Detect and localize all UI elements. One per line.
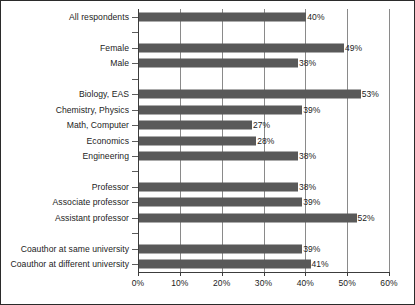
y-tick: [132, 202, 138, 203]
y-tick: [132, 94, 138, 95]
y-tick-spacer: [132, 171, 138, 172]
bar-value-label: 38%: [299, 58, 316, 68]
category-label: Coauthor at same university: [1, 244, 132, 254]
bar-value-label: 40%: [307, 12, 324, 22]
bar: [139, 121, 252, 130]
y-tick-spacer: [132, 32, 138, 33]
y-tick: [132, 156, 138, 157]
category-label: Economics: [1, 136, 132, 146]
bar: [139, 213, 357, 222]
y-tick: [132, 63, 138, 64]
x-tick-label: 0%: [132, 278, 145, 288]
x-tick-50pct: [347, 272, 348, 276]
y-tick: [132, 218, 138, 219]
category-label: Female: [1, 43, 132, 53]
bar-value-label: 53%: [362, 89, 379, 99]
x-tick-label: 60%: [380, 278, 397, 288]
y-tick: [132, 48, 138, 49]
category-label: Chemistry, Physics: [1, 105, 132, 115]
x-tick-label: 30%: [255, 278, 272, 288]
x-tick-20pct: [222, 272, 223, 276]
y-tick-spacer: [132, 79, 138, 80]
category-label: Male: [1, 58, 132, 68]
y-tick: [132, 141, 138, 142]
category-label: Biology, EAS: [1, 89, 132, 99]
bar-chart-figure: 0%10%20%30%40%50%60%All respondents40%Fe…: [0, 0, 415, 305]
bar-value-label: 28%: [257, 136, 274, 146]
category-label: Assistant professor: [1, 213, 132, 223]
y-tick: [132, 187, 138, 188]
x-tick-0pct: [138, 272, 139, 276]
bar: [139, 198, 302, 207]
y-tick: [132, 249, 138, 250]
bar-value-label: 38%: [299, 182, 316, 192]
x-tick-label: 20%: [213, 278, 230, 288]
bar-value-label: 27%: [253, 120, 270, 130]
y-tick: [132, 264, 138, 265]
bar: [139, 59, 298, 68]
bar-value-label: 52%: [358, 213, 375, 223]
bar-value-label: 38%: [299, 151, 316, 161]
bar: [139, 136, 256, 145]
category-label: Coauthor at different university: [1, 259, 132, 269]
x-tick-30pct: [264, 272, 265, 276]
bar-value-label: 49%: [345, 43, 362, 53]
bar-value-label: 39%: [303, 105, 320, 115]
x-tick-label: 40%: [297, 278, 314, 288]
bar: [139, 151, 298, 160]
category-label: Math, Computer: [1, 120, 132, 130]
x-tick-10pct: [180, 272, 181, 276]
bar: [139, 182, 298, 191]
bar: [139, 90, 361, 99]
bar: [139, 260, 311, 269]
category-label: All respondents: [1, 12, 132, 22]
y-tick: [132, 125, 138, 126]
y-tick: [132, 110, 138, 111]
x-tick-60pct: [389, 272, 390, 276]
y-tick: [132, 17, 138, 18]
bar-value-label: 39%: [303, 197, 320, 207]
gridline-60pct: [389, 9, 390, 272]
y-tick-spacer: [132, 233, 138, 234]
category-label: Associate professor: [1, 197, 132, 207]
category-label: Engineering: [1, 151, 132, 161]
x-tick-label: 10%: [171, 278, 188, 288]
bar: [139, 43, 344, 52]
x-tick-label: 50%: [339, 278, 356, 288]
bar: [139, 244, 302, 253]
x-tick-40pct: [305, 272, 306, 276]
category-label: Professor: [1, 182, 132, 192]
bar-value-label: 39%: [303, 244, 320, 254]
bar: [139, 12, 306, 21]
bar: [139, 105, 302, 114]
bar-value-label: 41%: [312, 259, 329, 269]
